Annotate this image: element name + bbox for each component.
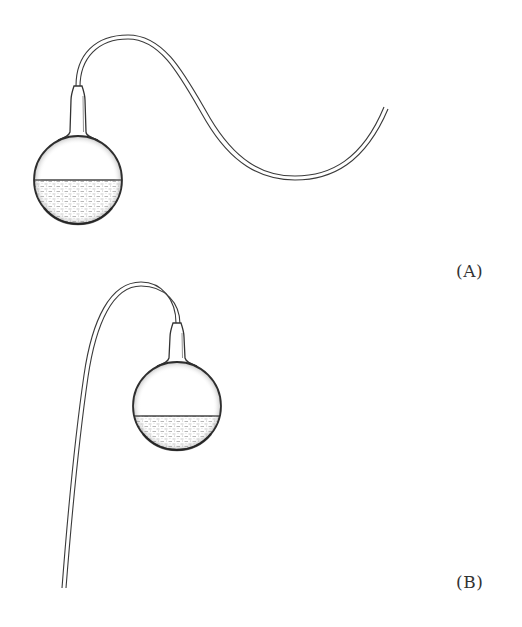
flask-neck-b — [157, 323, 197, 366]
flask-b — [62, 282, 226, 588]
flask-bulb-b — [130, 362, 226, 456]
panel-label-a: (A) — [456, 261, 483, 281]
flask-bulb-a — [30, 136, 126, 230]
swan-neck-tube-a — [76, 35, 388, 180]
swan-neck-flask-diagram — [0, 0, 522, 627]
flask-a — [30, 35, 388, 230]
flask-neck-a — [58, 86, 98, 140]
panel-label-b: (B) — [456, 572, 483, 592]
